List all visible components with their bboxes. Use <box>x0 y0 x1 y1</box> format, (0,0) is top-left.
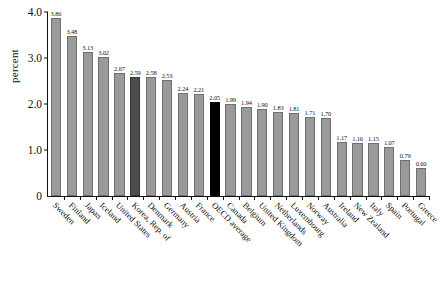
bar-slot[interactable]: 3.02 <box>96 12 112 196</box>
x-axis-tick-mark <box>397 197 398 200</box>
bar-slot[interactable]: 3.48 <box>64 12 80 196</box>
bar-slot[interactable]: 0.79 <box>397 12 413 196</box>
bar-slot[interactable]: 1.90 <box>254 12 270 196</box>
bar-value-label: 1.07 <box>384 139 395 146</box>
bar-slot[interactable]: 3.13 <box>80 12 96 196</box>
bar-value-label: 2.24 <box>178 85 189 92</box>
x-axis-tick-mark <box>143 197 144 200</box>
bar-slot[interactable]: 1.70 <box>318 12 334 196</box>
bar-slot[interactable]: 1.16 <box>350 12 366 196</box>
bar-slot[interactable]: 1.99 <box>223 12 239 196</box>
bar-value-label: 1.15 <box>368 135 379 142</box>
bar[interactable] <box>67 36 77 196</box>
bar[interactable] <box>257 109 267 196</box>
x-axis-tick-mark <box>254 197 255 200</box>
bar-slot[interactable]: 1.15 <box>366 12 382 196</box>
bar[interactable] <box>194 94 204 196</box>
bar-value-label: 2.53 <box>162 72 173 79</box>
bar-slot[interactable]: 2.58 <box>143 12 159 196</box>
bar[interactable] <box>400 160 410 196</box>
bar-value-label: 2.05 <box>209 94 220 101</box>
plot-area: 3.863.483.133.022.672.592.582.532.242.21… <box>48 12 429 196</box>
y-axis-tick-label: 3.0 <box>16 52 42 64</box>
x-axis-tick-mark <box>127 197 128 200</box>
bar[interactable] <box>416 168 426 196</box>
bar-slot[interactable]: 2.21 <box>191 12 207 196</box>
bar-value-label: 1.71 <box>305 109 316 116</box>
bar[interactable] <box>289 113 299 196</box>
bar[interactable] <box>384 147 394 196</box>
bar-value-label: 0.79 <box>400 152 411 159</box>
bar-slot[interactable]: 1.81 <box>286 12 302 196</box>
bar-slot[interactable]: 2.24 <box>175 12 191 196</box>
bar-value-label: 0.60 <box>416 160 427 167</box>
bar[interactable] <box>210 102 220 196</box>
bar[interactable] <box>162 80 172 196</box>
x-axis-tick-mark <box>159 197 160 200</box>
x-axis-tick-mark <box>64 197 65 200</box>
bar-value-label: 1.90 <box>257 101 268 108</box>
bar-slot[interactable]: 2.53 <box>159 12 175 196</box>
bar-value-label: 1.16 <box>352 135 363 142</box>
y-axis-tick-mark <box>44 150 48 151</box>
bar[interactable] <box>130 77 140 196</box>
bar[interactable] <box>51 18 61 196</box>
x-axis-tick-mark <box>270 197 271 200</box>
bar-slot[interactable]: 2.67 <box>112 12 128 196</box>
bar-value-label: 2.21 <box>193 86 204 93</box>
x-axis-tick-mark <box>366 197 367 200</box>
bar-slot[interactable]: 1.94 <box>239 12 255 196</box>
x-axis-tick-mark <box>175 197 176 200</box>
x-axis-tick-mark <box>350 197 351 200</box>
bar-value-label: 2.58 <box>146 69 157 76</box>
y-axis-tick-labels: 01.02.03.04.0 <box>14 0 42 287</box>
bar-value-label: 3.13 <box>82 44 93 51</box>
bar-value-label: 1.83 <box>273 104 284 111</box>
bar[interactable] <box>225 104 235 196</box>
bar-slot[interactable]: 2.59 <box>127 12 143 196</box>
bar[interactable] <box>305 117 315 196</box>
x-axis-tick-mark <box>191 197 192 200</box>
x-axis-tick-mark <box>286 197 287 200</box>
bar[interactable] <box>241 107 251 196</box>
bar-value-label: 1.94 <box>241 99 252 106</box>
bar[interactable] <box>321 118 331 196</box>
bar-slot[interactable]: 1.71 <box>302 12 318 196</box>
x-axis-tick-mark <box>96 197 97 200</box>
y-axis-tick-label: 2.0 <box>16 98 42 110</box>
x-axis-tick-mark <box>302 197 303 200</box>
bar-slot[interactable]: 1.07 <box>381 12 397 196</box>
y-axis-tick-mark <box>44 58 48 59</box>
bar-value-label: 3.02 <box>98 49 109 56</box>
bar-value-label: 2.59 <box>130 69 141 76</box>
x-axis-tick-mark <box>207 197 208 200</box>
bar-value-label: 1.81 <box>289 105 300 112</box>
bar[interactable] <box>178 93 188 196</box>
y-axis-tick-label: 0 <box>16 190 42 202</box>
x-axis-tick-mark <box>112 197 113 200</box>
y-axis-tick-mark <box>44 104 48 105</box>
bar-slot[interactable]: 0.60 <box>413 12 429 196</box>
bar[interactable] <box>114 73 124 196</box>
bar-value-label: 1.70 <box>320 110 331 117</box>
x-axis-tick-mark <box>239 197 240 200</box>
bar-slot[interactable]: 1.17 <box>334 12 350 196</box>
bar[interactable] <box>337 142 347 196</box>
bar[interactable] <box>273 112 283 196</box>
bar-slot[interactable]: 1.83 <box>270 12 286 196</box>
bar-slot[interactable]: 2.05 <box>207 12 223 196</box>
bar-value-label: 2.67 <box>114 65 125 72</box>
bar-slot[interactable]: 3.86 <box>48 12 64 196</box>
bar-value-label: 3.86 <box>51 10 62 17</box>
bar[interactable] <box>368 143 378 196</box>
bar[interactable] <box>98 57 108 196</box>
x-axis-tick-mark <box>413 197 414 200</box>
bar[interactable] <box>352 143 362 196</box>
bar-value-label: 3.48 <box>66 28 77 35</box>
bar[interactable] <box>146 77 156 196</box>
x-axis-tick-mark <box>223 197 224 200</box>
bar[interactable] <box>83 52 93 196</box>
x-axis-tick-mark <box>80 197 81 200</box>
x-axis-tick-mark <box>429 197 430 200</box>
